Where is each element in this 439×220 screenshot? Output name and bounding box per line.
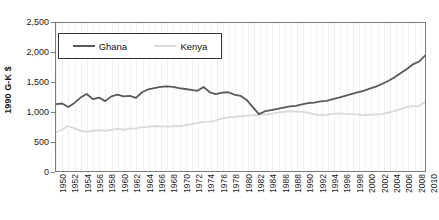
y-axis-tick-label: 1,500: [26, 77, 49, 87]
line-chart: 1990 G-K $ 05001,0001,5002,0002,500 1950…: [0, 0, 439, 220]
y-axis-tickmark: [51, 112, 55, 113]
y-axis-tick-label: 2,500: [26, 17, 49, 27]
x-axis-tick-label: 1990: [306, 174, 315, 193]
x-axis-tick-label: 1984: [269, 174, 278, 193]
x-axis-tick-label: 1982: [257, 174, 266, 193]
y-axis-tickmark: [51, 82, 55, 83]
x-axis-tick-label: 1988: [294, 174, 303, 193]
legend-swatch-ghana: [73, 45, 95, 47]
chart-legend: Ghana Kenya: [58, 33, 222, 59]
x-axis-tick-label: 1952: [71, 174, 80, 193]
y-axis-title: 1990 G-K $: [0, 0, 16, 180]
x-axis-tick-label: 2010: [430, 174, 439, 193]
x-axis-tick-label: 1992: [319, 174, 328, 193]
legend-label-ghana: Ghana: [99, 41, 128, 52]
x-axis-tick-label: 1974: [207, 174, 216, 193]
y-axis-tick-label: 500: [34, 137, 49, 147]
x-axis-tick-label: 1998: [356, 174, 365, 193]
x-axis-tick-label: 1966: [158, 174, 167, 193]
x-axis-tick-label: 1962: [133, 174, 142, 193]
x-axis-tick-label: 2002: [381, 174, 390, 193]
legend-item-ghana: Ghana: [73, 41, 128, 52]
x-axis-tick-label: 2006: [405, 174, 414, 193]
series-line-kenya: [56, 102, 425, 132]
y-axis-tick-label: 0: [44, 167, 49, 177]
x-axis-tick-label: 1956: [96, 174, 105, 193]
y-axis-tick-label: 1,000: [26, 107, 49, 117]
x-axis-tick-label: 1978: [232, 174, 241, 193]
legend-swatch-kenya: [154, 45, 176, 47]
x-axis-tick-label: 1980: [245, 174, 254, 193]
legend-label-kenya: Kenya: [180, 41, 207, 52]
x-axis-tick-label: 1960: [121, 174, 130, 193]
y-axis-tick-labels: 05001,0001,5002,0002,500: [16, 0, 52, 180]
x-axis-tick-label: 2008: [418, 174, 427, 193]
x-axis-tick-label: 1950: [59, 174, 68, 193]
x-axis-tick-label: 1976: [220, 174, 229, 193]
x-axis-tick-label: 1994: [331, 174, 340, 193]
x-axis-tick-label: 1970: [183, 174, 192, 193]
x-axis-tick-label: 2000: [368, 174, 377, 193]
x-axis-tick-label: 1964: [146, 174, 155, 193]
x-axis-tick-label: 2004: [393, 174, 402, 193]
x-axis-tick-labels: 1950195219541956195819601962196419661968…: [55, 174, 426, 220]
y-axis-tickmark: [51, 142, 55, 143]
x-axis-tick-label: 1986: [282, 174, 291, 193]
series-line-ghana: [56, 56, 425, 115]
y-axis-tickmark: [51, 52, 55, 53]
x-axis-tick-label: 1972: [195, 174, 204, 193]
y-axis-tick-label: 2,000: [26, 47, 49, 57]
legend-item-kenya: Kenya: [154, 41, 207, 52]
y-axis-tickmark: [51, 22, 55, 23]
x-axis-tick-label: 1954: [84, 174, 93, 193]
x-axis-tick-label: 1958: [108, 174, 117, 193]
x-axis-tick-label: 1996: [343, 174, 352, 193]
y-axis-tickmark: [51, 172, 55, 173]
y-axis-title-label: 1990 G-K $: [3, 66, 13, 114]
x-axis-tick-label: 1968: [170, 174, 179, 193]
